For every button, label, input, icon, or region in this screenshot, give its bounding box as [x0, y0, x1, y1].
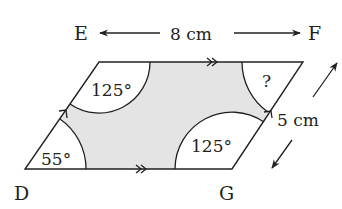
- label-F: F: [308, 22, 321, 44]
- label-height-5cm: 5 cm: [277, 110, 319, 130]
- angle-label-top-right: ?: [262, 71, 271, 91]
- arrow-up-5cm: [313, 63, 337, 97]
- angle-label-G: 125°: [191, 136, 232, 156]
- angle-label-D: 55°: [41, 149, 71, 169]
- label-width-8cm: 8 cm: [170, 24, 212, 44]
- angle-label-top-left: 125°: [91, 80, 132, 100]
- parallelogram-diagram: E F D G 8 cm 5 cm 125° ? 55° 125°: [0, 0, 342, 209]
- label-G: G: [219, 182, 234, 204]
- arrow-down-5cm: [272, 140, 292, 168]
- label-D: D: [14, 182, 29, 204]
- label-E: E: [74, 22, 88, 44]
- shaded-region: [60, 62, 268, 169]
